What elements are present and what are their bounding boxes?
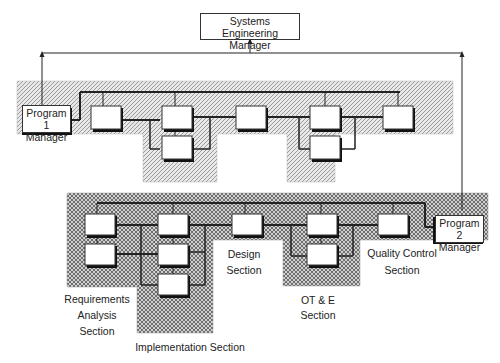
program1-manager-line2: Manager	[23, 131, 70, 143]
program1-manager-line1: Program 1	[23, 107, 70, 131]
label-line: OT & E	[296, 293, 340, 308]
program2-manager-line1: Program 2	[436, 217, 483, 241]
label-line: Section	[222, 262, 266, 278]
program1-manager-box: Program 1 Manager	[22, 105, 71, 133]
program2-manager-box: Program 2 Manager	[435, 215, 484, 243]
quality-control-section-label: Quality Control Section	[358, 245, 446, 279]
implementation-section-label: Implementation Section	[130, 341, 250, 354]
systems-engineering-manager-box: Systems Engineering Manager	[200, 13, 300, 40]
design-section-label: Design Section	[222, 246, 266, 278]
label-line: Design	[222, 246, 266, 262]
label-line: Section	[64, 323, 130, 339]
label-line: Quality Control	[358, 245, 446, 262]
systems-engineering-manager-line2: Engineering Manager	[201, 27, 299, 51]
systems-engineering-manager-line1: Systems	[201, 15, 299, 27]
ot-and-e-section-label: OT & E Section	[296, 293, 340, 323]
label-line: Requirements	[64, 291, 130, 307]
label-line: Analysis	[64, 307, 130, 323]
label-line: Section	[296, 308, 340, 323]
label-line: Section	[358, 262, 446, 279]
requirements-analysis-section-label: Requirements Analysis Section	[64, 291, 130, 339]
label-line: Implementation Section	[130, 341, 250, 354]
